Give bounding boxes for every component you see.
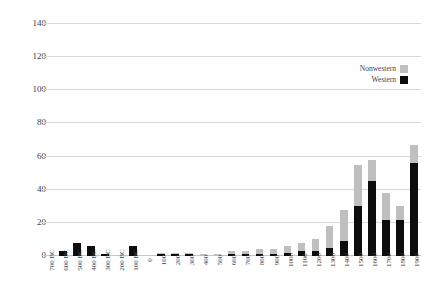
- bar-segment-nonwestern: [382, 193, 390, 220]
- x-tick-label: 1200: [316, 253, 323, 267]
- x-tick-slot: 1800: [393, 258, 407, 308]
- x-tick-label: 300 BC: [105, 249, 112, 271]
- x-tick-label: 200: [175, 255, 182, 266]
- bar-stack: [171, 24, 179, 256]
- x-tick-slot: 1300: [323, 258, 337, 308]
- bar-slot: [56, 24, 70, 256]
- bar-stack: [59, 24, 67, 256]
- x-axis-tick-labels: 700 BC600 BC500 BC400 BC300 BC200 BC100 …: [42, 258, 421, 308]
- bar-slot: [224, 24, 238, 256]
- bar-stack: [270, 24, 278, 256]
- bar-slot: [42, 24, 56, 256]
- bar-segment-nonwestern: [368, 160, 376, 182]
- x-tick-slot: 300: [182, 258, 196, 308]
- bar-stack: [382, 24, 390, 256]
- x-tick-label: 1800: [400, 253, 407, 267]
- x-tick-label: 0: [147, 258, 154, 262]
- x-tick-label: 1900: [414, 253, 421, 267]
- bar-slot: [154, 24, 168, 256]
- x-tick-slot: 1900: [407, 258, 421, 308]
- x-tick-slot: 0: [140, 258, 154, 308]
- x-tick-slot: 500 BC: [70, 258, 84, 308]
- legend-label: Nonwestern: [360, 64, 396, 74]
- x-tick-label: 1100: [302, 253, 309, 267]
- bar-stack: [87, 24, 95, 256]
- bar-stack: [326, 24, 334, 256]
- x-tick-slot: 600 BC: [56, 258, 70, 308]
- x-tick-slot: 1700: [379, 258, 393, 308]
- bar-stack: [143, 24, 151, 256]
- x-tick-slot: 400 BC: [84, 258, 98, 308]
- bar-stack: [242, 24, 250, 256]
- x-tick-slot: 100 BC: [126, 258, 140, 308]
- bar-stack: [284, 24, 292, 256]
- x-tick-label: 100 BC: [133, 249, 140, 271]
- bar-stack: [396, 24, 404, 256]
- bar-slot: [126, 24, 140, 256]
- x-tick-label: 700 BC: [49, 249, 56, 271]
- bar-stack: [200, 24, 208, 256]
- bar-slot: [168, 24, 182, 256]
- bar-stack: [368, 24, 376, 256]
- x-tick-slot: 300 BC: [98, 258, 112, 308]
- x-tick-slot: 1200: [309, 258, 323, 308]
- bar-slot: [407, 24, 421, 256]
- x-tick-slot: 200: [168, 258, 182, 308]
- x-tick-label: 600: [231, 255, 238, 266]
- x-tick-label: 100: [161, 255, 168, 266]
- bar-slot: [238, 24, 252, 256]
- bar-segment-nonwestern: [354, 165, 362, 206]
- legend-swatch-western: [400, 76, 408, 84]
- bar-segment-western: [410, 163, 418, 256]
- bar-stack: [45, 24, 53, 256]
- bar-segment-western: [354, 206, 362, 256]
- x-tick-slot: 700 BC: [42, 258, 56, 308]
- bar-segment-nonwestern: [298, 243, 306, 251]
- x-tick-label: 1600: [372, 253, 379, 267]
- x-tick-slot: 1600: [365, 258, 379, 308]
- x-tick-slot: 1500: [351, 258, 365, 308]
- x-tick-slot: 600: [224, 258, 238, 308]
- bar-stack: [410, 24, 418, 256]
- x-tick-label: 600 BC: [63, 249, 70, 271]
- bar-segment-western: [382, 220, 390, 256]
- bar-slot: [210, 24, 224, 256]
- bar-slot: [365, 24, 379, 256]
- bar-slot: [252, 24, 266, 256]
- bar-segment-nonwestern: [340, 210, 348, 241]
- bar-slot: [295, 24, 309, 256]
- x-tick-label: 500: [217, 255, 224, 266]
- bar-stack: [340, 24, 348, 256]
- bar-series-group: [42, 24, 421, 256]
- bar-segment-western: [368, 181, 376, 256]
- x-tick-label: 1300: [330, 253, 337, 267]
- bar-slot: [70, 24, 84, 256]
- x-tick-slot: 800: [252, 258, 266, 308]
- bar-stack: [354, 24, 362, 256]
- bar-segment-western: [396, 220, 404, 256]
- chart-container: 020406080100120140 700 BC600 BC500 BC400…: [0, 0, 431, 308]
- x-tick-slot: 400: [196, 258, 210, 308]
- bar-slot: [281, 24, 295, 256]
- bar-slot: [379, 24, 393, 256]
- bar-slot: [112, 24, 126, 256]
- bar-slot: [84, 24, 98, 256]
- bar-slot: [267, 24, 281, 256]
- bar-segment-nonwestern: [410, 145, 418, 163]
- legend-label: Western: [372, 75, 396, 85]
- x-tick-label: 1400: [344, 253, 351, 267]
- bar-slot: [337, 24, 351, 256]
- x-tick-label: 1700: [386, 253, 393, 267]
- x-tick-label: 400: [203, 255, 210, 266]
- x-tick-slot: 500: [210, 258, 224, 308]
- x-tick-label: 400 BC: [91, 249, 98, 271]
- bar-stack: [129, 24, 137, 256]
- bar-segment-nonwestern: [396, 206, 404, 219]
- bar-segment-nonwestern: [284, 246, 292, 253]
- bar-segment-nonwestern: [312, 239, 320, 251]
- x-tick-label: 700: [245, 255, 252, 266]
- x-tick-slot: 700: [238, 258, 252, 308]
- x-tick-slot: 1100: [295, 258, 309, 308]
- bar-segment-nonwestern: [326, 226, 334, 248]
- x-tick-label: 1500: [358, 253, 365, 267]
